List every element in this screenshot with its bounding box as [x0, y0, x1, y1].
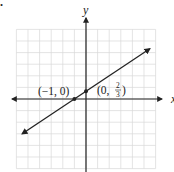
y-axis-label: y: [82, 3, 89, 17]
list-marker: .: [0, 0, 3, 9]
point-a-label: (−1, 0): [38, 85, 70, 98]
point-neg1-0: [72, 97, 76, 101]
point-b-numerator: 2: [116, 81, 120, 90]
point-b-label-suffix: ): [122, 84, 126, 97]
point-b-denominator: 3: [116, 90, 120, 99]
point-0-two-thirds: [84, 89, 88, 93]
x-axis-label: x: [170, 92, 174, 106]
coordinate-plane: y x (−1, 0) (0, 2 3 ) .: [0, 0, 174, 172]
point-b-label-prefix: (0,: [97, 84, 110, 97]
